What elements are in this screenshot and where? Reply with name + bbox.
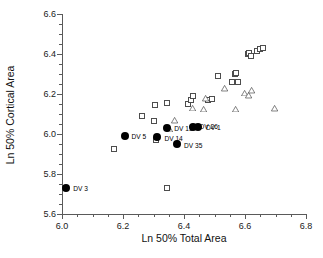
data-point-square (164, 185, 170, 191)
data-point-triangle (190, 105, 196, 111)
data-point-square (235, 79, 241, 85)
data-point-square (164, 100, 170, 106)
x-tick-minor (230, 214, 231, 217)
x-axis-title: Ln 50% Total Area (62, 232, 306, 244)
y-tick-minor (59, 104, 62, 105)
y-tick-minor (59, 74, 62, 75)
y-tick-major (57, 174, 62, 175)
x-tick-minor (154, 214, 155, 217)
data-point-triangle (249, 88, 255, 94)
data-point-circle (121, 132, 129, 140)
x-tick-minor (276, 214, 277, 217)
y-tick-minor (59, 154, 62, 155)
y-tick-minor (59, 44, 62, 45)
y-tick-major (57, 94, 62, 95)
x-tick-major (62, 214, 63, 219)
x-tick-minor (169, 214, 170, 217)
plot-area: 5.65.86.06.26.46.66.06.26.46.66.8 DV 3DV… (62, 14, 306, 215)
y-tick-label: 5.6 (43, 209, 56, 219)
y-tick-major (57, 54, 62, 55)
x-tick-minor (215, 214, 216, 217)
y-tick-minor (59, 24, 62, 25)
x-tick-major (123, 214, 124, 219)
data-point-square (139, 113, 145, 119)
x-tick-minor (93, 214, 94, 217)
x-tick-label: 6.2 (117, 221, 130, 231)
data-point-label: DV 1 (206, 124, 221, 131)
data-point-triangle (272, 106, 278, 112)
data-point-square (229, 79, 235, 85)
y-tick-major (57, 134, 62, 135)
y-tick-label: 6.2 (43, 89, 56, 99)
data-point-triangle (221, 85, 227, 91)
chart-root: Ln 50% Cortical Area Ln 50% Total Area 5… (0, 0, 323, 258)
x-tick-label: 6.0 (56, 221, 69, 231)
y-tick-minor (59, 194, 62, 195)
data-point-label: DV 3 (73, 185, 88, 192)
data-point-circle (194, 123, 202, 131)
data-point-triangle (172, 118, 178, 124)
x-tick-major (245, 214, 246, 219)
x-tick-minor (199, 214, 200, 217)
data-point-label: DV 5 (132, 132, 147, 139)
x-tick-minor (77, 214, 78, 217)
data-point-square (248, 53, 254, 59)
y-tick-minor (59, 144, 62, 145)
y-tick-minor (59, 34, 62, 35)
y-tick-label: 6.6 (43, 9, 56, 19)
x-tick-minor (291, 214, 292, 217)
data-point-square (190, 93, 196, 99)
y-tick-minor (59, 114, 62, 115)
data-markers: DV 3DV 5DV 14DV 13DV 35DV 26DV 1 (62, 14, 306, 80)
x-tick-label: 6.6 (239, 221, 252, 231)
y-tick-minor (59, 164, 62, 165)
y-tick-minor (59, 64, 62, 65)
x-tick-major (184, 214, 185, 219)
y-axis-title: Ln 50% Cortical Area (2, 14, 18, 215)
y-tick-minor (59, 204, 62, 205)
data-point-square (151, 118, 157, 124)
y-tick-label: 6.4 (43, 49, 56, 59)
x-tick-minor (138, 214, 139, 217)
data-point-square (260, 45, 266, 51)
x-tick-label: 6.8 (300, 221, 313, 231)
data-point-circle (163, 124, 171, 132)
data-point-square (215, 73, 221, 79)
data-point-triangle (201, 106, 207, 112)
y-tick-minor (59, 184, 62, 185)
data-point-triangle (233, 106, 239, 112)
y-tick-major (57, 14, 62, 15)
data-point-circle (173, 140, 181, 148)
y-tick-minor (59, 124, 62, 125)
data-point-circle (153, 133, 161, 141)
x-tick-major (306, 214, 307, 219)
data-point-square (111, 146, 117, 152)
data-point-circle (62, 184, 70, 192)
x-tick-label: 6.4 (178, 221, 191, 231)
data-point-label: DV 35 (184, 142, 202, 149)
data-point-square (209, 96, 215, 102)
data-point-triangle (202, 96, 208, 102)
data-point-square (233, 70, 239, 76)
x-tick-minor (260, 214, 261, 217)
y-tick-minor (59, 84, 62, 85)
x-tick-minor (108, 214, 109, 217)
y-tick-label: 6.0 (43, 129, 56, 139)
y-tick-label: 5.8 (43, 169, 56, 179)
data-point-square (152, 102, 158, 108)
